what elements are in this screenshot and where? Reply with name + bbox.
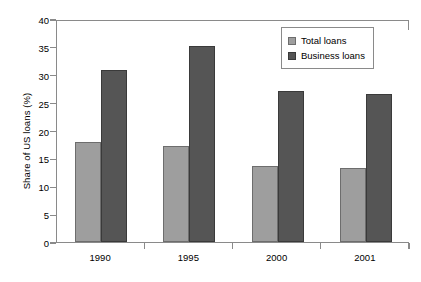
x-axis-tick — [144, 243, 145, 249]
x-axis-tick-label: 2001 — [325, 252, 405, 263]
y-axis-tick — [50, 159, 56, 160]
y-axis-tick — [50, 131, 56, 132]
legend: Total loans Business loans — [281, 27, 374, 69]
y-axis-labels: 0510152025303540 — [0, 0, 49, 282]
y-axis-tick-label: 10 — [5, 182, 49, 193]
y-axis-tick — [50, 242, 56, 243]
bar-2001-total-loans — [340, 168, 366, 242]
bar-chart: Share of US loans (%) 0510152025303540 1… — [0, 0, 421, 282]
y-axis-tick-label: 15 — [5, 154, 49, 165]
bar-2000-business-loans — [278, 91, 304, 242]
x-axis-tick — [408, 243, 409, 249]
x-axis-tick-label: 1990 — [60, 252, 140, 263]
x-axis-tick-label: 2000 — [237, 252, 317, 263]
y-axis-tick-label: 35 — [5, 42, 49, 53]
legend-swatch-total-loans — [288, 37, 296, 45]
bar-2000-total-loans — [252, 166, 278, 242]
y-axis-tick — [50, 75, 56, 76]
legend-item-total-loans[interactable]: Total loans — [288, 33, 365, 48]
y-axis-tick-label: 0 — [5, 238, 49, 249]
legend-swatch-business-loans — [288, 52, 296, 60]
legend-label-business-loans: Business loans — [301, 50, 365, 61]
bar-1995-total-loans — [163, 146, 189, 242]
y-axis-tick — [50, 19, 56, 20]
bar-1995-business-loans — [189, 46, 215, 242]
y-axis-tick — [50, 47, 56, 48]
y-axis-tick-label: 20 — [5, 126, 49, 137]
y-axis-tick-label: 25 — [5, 98, 49, 109]
legend-label-total-loans: Total loans — [301, 35, 346, 46]
y-axis-tick — [50, 215, 56, 216]
y-axis-tick — [50, 187, 56, 188]
y-axis-tick-label: 5 — [5, 210, 49, 221]
bar-1990-total-loans — [75, 142, 101, 242]
x-axis-tick — [232, 243, 233, 249]
legend-item-business-loans[interactable]: Business loans — [288, 48, 365, 63]
bar-2001-business-loans — [366, 94, 392, 242]
x-axis-tick-label: 1995 — [148, 252, 228, 263]
y-axis-tick-label: 40 — [5, 15, 49, 26]
y-axis-tick-label: 30 — [5, 70, 49, 81]
y-axis-tick — [50, 103, 56, 104]
bar-1990-business-loans — [101, 70, 127, 242]
x-axis-tick — [320, 243, 321, 249]
